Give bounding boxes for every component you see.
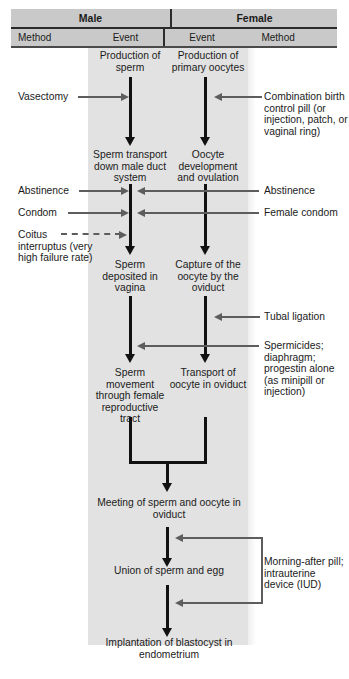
- tubal-ligation-arrow-head: [214, 313, 222, 321]
- header-male: Male: [11, 9, 172, 27]
- female-method-label-spermicides: Spermicides; diaphragm; progestin alone …: [264, 340, 348, 398]
- male-arrow-1-line: [129, 77, 132, 139]
- female-event-1: Production of primary oocytes: [169, 50, 247, 73]
- header-female-event: Event: [165, 29, 240, 46]
- female-method-label-combination-pill: Combination birth control pill (or injec…: [264, 91, 348, 137]
- header-female: Female: [172, 9, 337, 27]
- header-male-method: Method: [11, 29, 88, 46]
- merge-arrow-line: [166, 464, 169, 485]
- male-arrow-1-head: [125, 137, 135, 146]
- female-event-3: Capture of the oocyte by the oviduct: [169, 259, 247, 294]
- iud-elbow-upper-bar: [183, 537, 263, 539]
- iud-elbow-lower-bar: [183, 602, 263, 604]
- coitus-interruptus-arrow-head: [119, 231, 127, 239]
- female-method-label-tubal-ligation: Tubal ligation: [264, 311, 348, 323]
- header-male-event: Event: [88, 29, 165, 46]
- male-event-1: Production of sperm: [92, 50, 168, 73]
- female-condom-arrow-head: [137, 209, 145, 217]
- male-arrow-2-line: [129, 184, 132, 248]
- female-arrow-1-line: [204, 77, 207, 139]
- female-method-label-abstinence: Abstinence: [264, 185, 348, 197]
- female-arrow-3-head: [200, 354, 210, 363]
- merge-bracket-left-stem: [129, 417, 132, 464]
- female-method-label-morning-after-pill: Morning-after pill; intrauterine device …: [264, 556, 348, 591]
- shared-arrow-1-head: [162, 558, 172, 567]
- header-row-sex: Male Female: [11, 9, 337, 29]
- female-arrow-2-head: [200, 246, 210, 255]
- iud-elbow-vertical-stem: [261, 538, 263, 604]
- merge-arrow-head: [162, 483, 172, 492]
- combination-pill-arrow-line: [222, 96, 262, 98]
- female-arrow-2-line: [204, 184, 207, 248]
- combination-pill-arrow-head: [214, 93, 222, 101]
- shared-arrow-2-line: [166, 585, 169, 630]
- header-row-subcolumns: Method Event Event Method: [11, 29, 337, 48]
- iud-upper-arrow-head: [175, 534, 183, 542]
- spermicides-arrow-line: [145, 345, 259, 347]
- female-event-2: Oocyte development and ovulation: [169, 149, 247, 184]
- header-female-method: Method: [239, 29, 337, 46]
- coitus-interruptus-arrow-dashes: [61, 233, 121, 235]
- male-arrow-2-head: [125, 246, 135, 255]
- merge-bracket-right-stem: [204, 417, 207, 464]
- condom-arrow-line: [68, 212, 122, 214]
- shared-event-1: Meeting of sperm and oocyte in oviduct: [90, 497, 248, 520]
- female-arrow-1-head: [200, 137, 210, 146]
- male-event-3: Sperm deposited in vagina: [92, 259, 168, 294]
- vasectomy-arrow-line: [78, 96, 122, 98]
- column-header-table: Male Female Method Event Event Method: [11, 9, 337, 48]
- shared-event-3: Implantation of blastocyst in endometriu…: [90, 637, 248, 660]
- female-arrow-3-line: [204, 296, 207, 356]
- male-abstinence-arrow-head: [121, 187, 129, 195]
- male-arrow-3-head: [125, 354, 135, 363]
- female-condom-arrow-line: [145, 212, 259, 214]
- spermicides-arrow-head: [137, 342, 145, 350]
- vasectomy-arrow-head: [121, 93, 129, 101]
- female-abstinence-arrow-line: [145, 190, 259, 192]
- iud-lower-arrow-head: [175, 599, 183, 607]
- male-abstinence-arrow-line: [79, 190, 122, 192]
- female-event-4: Transport of oocyte in oviduct: [169, 367, 247, 390]
- female-abstinence-arrow-head: [137, 187, 145, 195]
- tubal-ligation-arrow-line: [222, 316, 260, 318]
- shared-arrow-2-head: [162, 628, 172, 637]
- female-method-label-female-condom: Female condom: [264, 207, 348, 219]
- condom-arrow-head: [121, 209, 129, 217]
- shared-arrow-1-line: [166, 527, 169, 560]
- male-arrow-3-line: [129, 296, 132, 356]
- male-event-2: Sperm transport down male duct system: [92, 149, 168, 184]
